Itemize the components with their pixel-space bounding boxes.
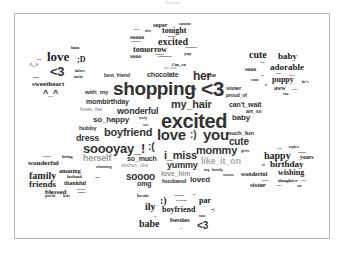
- word-cloud-term: sooooo: [223, 174, 233, 177]
- word-cloud-term: girls: [241, 149, 249, 153]
- word-cloud-term: boyfriend: [104, 127, 152, 138]
- word-cloud-term: hubby: [79, 125, 96, 131]
- word-cloud-term: sweetheart: [32, 81, 64, 88]
- word-cloud-term: wishing: [278, 169, 304, 177]
- figure-title: Parents: [0, 0, 345, 6]
- word-cloud-term: love_him: [161, 170, 190, 177]
- word-cloud-term: omg: [137, 180, 151, 187]
- word-cloud-term: or: [193, 194, 195, 197]
- word-cloud-term: love: [157, 127, 186, 142]
- word-cloud-term: mombirthday: [86, 98, 129, 105]
- word-cloud-term: muaha: [33, 76, 39, 78]
- word-cloud-term: <3: [201, 78, 224, 99]
- word-cloud-term: baby: [278, 52, 297, 61]
- word-cloud-term: her: [261, 74, 264, 76]
- word-cloud-term: my_hair: [171, 99, 212, 110]
- word-cloud-term: loving: [62, 155, 72, 159]
- word-cloud-term: mommy: [196, 145, 237, 156]
- word-cloud-term: babe: [139, 219, 160, 229]
- word-cloud-term: son: [297, 185, 301, 188]
- word-cloud-term: yay: [184, 51, 192, 56]
- word-cloud-term: her_sister: [164, 67, 177, 70]
- word-cloud-term: chocolate: [147, 71, 178, 78]
- word-cloud-term: wishes_she: [121, 163, 148, 168]
- word-cloud-term: daughter: [278, 178, 297, 183]
- word-cloud-term: :): [190, 130, 196, 140]
- word-cloud-term: soo: [283, 92, 289, 96]
- word-cloud-term: sweet: [260, 61, 265, 63]
- word-cloud-term: yummy: [167, 161, 198, 170]
- word-cloud-term: boyfriend: [162, 206, 195, 214]
- word-cloud-term: <3: [50, 65, 64, 78]
- word-cloud-term: lucky: [63, 195, 70, 198]
- word-cloud-term: xoxo: [199, 215, 205, 218]
- word-cloud-term: soooo: [251, 79, 258, 82]
- word-cloud-term: ;D: [77, 56, 85, 64]
- word-cloud-term: =): [211, 208, 215, 212]
- word-cloud-term: thayre: [134, 28, 140, 30]
- word-cloud-term: grateful: [45, 195, 55, 198]
- word-cloud-term: xo: [180, 227, 182, 229]
- word-cloud-term: so_happy: [93, 116, 129, 124]
- word-cloud-term: with_my: [85, 89, 108, 95]
- word-cloud-term: boyfriend: [176, 200, 186, 203]
- word-cloud-term: husband: [162, 178, 186, 184]
- word-cloud-term: love: [47, 50, 69, 63]
- word-cloud-term: loves_her: [80, 107, 102, 112]
- word-cloud-term: girlie: [37, 58, 41, 60]
- word-cloud-term: xx: [154, 215, 156, 217]
- word-cloud-term: <3: [197, 221, 208, 231]
- word-cloud-term: he's: [302, 80, 309, 84]
- word-cloud-term: daughter: [78, 191, 86, 193]
- word-cloud-term: ^_^: [43, 89, 58, 98]
- word-cloud-term: tonight: [162, 27, 186, 35]
- word-cloud-term: husband: [67, 175, 82, 179]
- word-cloud-term: ^.^: [29, 62, 39, 69]
- word-cloud-term: sister: [226, 85, 241, 91]
- word-cloud-term: wonderful: [28, 160, 59, 167]
- word-cloud-term: ridiculously: [185, 47, 198, 50]
- word-cloud-term: cute: [249, 50, 267, 60]
- word-cloud-term: nephew: [289, 146, 299, 149]
- word-cloud-term: sooooooo: [131, 41, 141, 44]
- word-cloud-term: cleaning: [96, 165, 112, 169]
- word-cloud-term: mucho: [74, 76, 83, 79]
- word-cloud-term: :(: [148, 142, 154, 152]
- word-cloud-term: twins: [277, 147, 282, 149]
- word-cloud-term: shopping: [113, 79, 195, 98]
- word-cloud-term: after: [145, 30, 151, 33]
- word-cloud-term: niece: [277, 184, 281, 186]
- word-cloud-term: like_it_on: [201, 157, 241, 166]
- word-cloud-term: thankful: [64, 180, 86, 186]
- word-cloud-term: you: [203, 127, 229, 142]
- word-cloud-term: lovely: [139, 117, 147, 120]
- word-cloud-term: loved: [190, 176, 210, 184]
- word-cloud-term: husband: [175, 195, 184, 198]
- word-cloud-term: boyfriend: [77, 188, 85, 190]
- word-cloud-term: puppy: [272, 76, 294, 84]
- word-cloud-term: sooo: [130, 53, 141, 59]
- word-cloud-term: cupcakes: [43, 155, 51, 157]
- word-cloud-term: grandson: [298, 151, 306, 153]
- word-cloud-term: inlove: [75, 69, 85, 73]
- word-cloud-term: baby: [232, 114, 250, 122]
- word-cloud-term: my_family: [204, 168, 223, 172]
- word-cloud-term: cutest: [276, 72, 281, 74]
- word-cloud-term: sooo: [245, 66, 256, 72]
- word-cloud-term: super: [95, 176, 100, 178]
- word-cloud-term: hun: [71, 45, 79, 50]
- word-cloud-term: ily: [145, 202, 156, 212]
- word-cloud-term: ofpharmalin: [158, 56, 171, 59]
- word-cloud-term: sweet: [301, 179, 306, 181]
- word-cloud-term: herself: [83, 154, 111, 163]
- word-cloud-term: adorable: [270, 63, 304, 72]
- word-cloud-term: so_much: [127, 155, 157, 162]
- word-cloud-term: ugh: [191, 88, 196, 91]
- word-cloud-term: st: [262, 163, 265, 167]
- word-cloud-term: wonderful: [241, 171, 267, 177]
- word-cloud-term: besties: [170, 217, 190, 224]
- word-cloud-term: is: [265, 84, 267, 87]
- word-cloud-term: awww: [292, 88, 297, 90]
- word-cloud-term: can't_wait: [229, 101, 261, 108]
- word-cloud-term: par: [199, 197, 211, 205]
